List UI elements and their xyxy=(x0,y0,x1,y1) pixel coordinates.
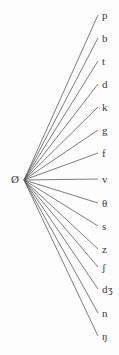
edge-to-leaf-k xyxy=(24,107,98,180)
leaf-g: g xyxy=(102,125,108,136)
edge-to-leaf-b xyxy=(24,38,98,180)
edge-group xyxy=(24,15,98,336)
leaf-k: k xyxy=(102,102,108,113)
leaf-theta: θ xyxy=(102,198,107,209)
leaf-b: b xyxy=(102,33,108,44)
leaf-d: d xyxy=(102,79,108,90)
edge-to-leaf-z xyxy=(24,180,98,249)
leaf-n: n xyxy=(102,308,108,319)
leaf-s: s xyxy=(102,221,106,232)
phoneme-fan-diagram: Ø pbtdkgfvθszʃdʒnŋ xyxy=(0,0,119,355)
edge-to-leaf-dezh xyxy=(24,180,98,289)
edge-to-leaf-esh xyxy=(24,180,98,267)
leaf-esh: ʃ xyxy=(102,262,106,273)
edge-to-leaf-t xyxy=(24,61,98,180)
leaf-p: p xyxy=(102,10,108,21)
leaf-dezh: dʒ xyxy=(102,284,113,295)
edge-to-leaf-v xyxy=(24,179,98,180)
leaf-f: f xyxy=(102,148,106,159)
leaf-z: z xyxy=(102,244,107,255)
edge-to-leaf-f xyxy=(24,153,98,180)
leaf-v: v xyxy=(102,174,108,185)
leaf-eng: ŋ xyxy=(102,331,108,342)
root-node-empty-set: Ø xyxy=(11,174,19,185)
leaf-t: t xyxy=(102,56,105,67)
